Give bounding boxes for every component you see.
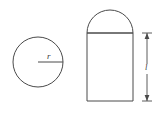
- radius-label: r: [47, 51, 51, 61]
- hemisphere-cap: [87, 10, 133, 33]
- cylinder-body: [87, 33, 133, 101]
- dimension-arrow-down: [145, 95, 150, 101]
- length-dimension-group: l: [142, 33, 152, 101]
- dimension-arrow-up: [145, 33, 150, 39]
- length-label: l: [145, 62, 148, 72]
- capped-cylinder-group: [87, 10, 133, 101]
- circle-group: r: [13, 37, 63, 87]
- figure-canvas: r l: [0, 0, 159, 113]
- geometry-figure: r l: [0, 0, 159, 113]
